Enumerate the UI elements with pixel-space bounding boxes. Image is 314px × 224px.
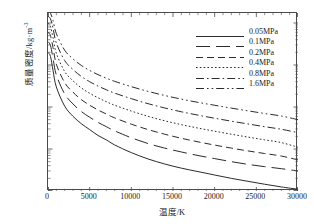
density-temperature-chart: 质量密度/kg·m-3 10110010-110-210-3 050001000… [0, 0, 314, 224]
legend-line-swatch [196, 69, 244, 78]
y-axis-title-text: 质量密度/kg·m [24, 28, 34, 86]
y-axis-title-exponent: -3 [23, 22, 29, 27]
legend-item: 0.8MPa [196, 68, 296, 79]
legend-item: 0.1MPa [196, 37, 296, 48]
x-tick-label: 5000 [69, 192, 109, 201]
legend-label: 0.4MPa [244, 58, 274, 67]
legend-item: 0.4MPa [196, 58, 296, 69]
legend-label: 0.2MPa [244, 48, 274, 57]
legend-item: 1.6MPa [196, 79, 296, 90]
legend-line-swatch [196, 58, 244, 67]
x-axis-title: 温度/K [47, 205, 297, 217]
legend: 0.05MPa0.1MPa0.2MPa0.4MPa0.8MPa1.6MPa [196, 26, 296, 89]
y-axis-title: 质量密度/kg·m-3 [22, 0, 34, 114]
x-tick-label: 10000 [110, 192, 150, 201]
legend-line-swatch [196, 37, 244, 46]
legend-line-swatch [196, 48, 244, 57]
legend-line-swatch [196, 79, 244, 88]
legend-line-swatch [196, 27, 244, 36]
legend-label: 0.05MPa [244, 27, 278, 36]
legend-item: 0.05MPa [196, 26, 296, 37]
legend-label: 0.8MPa [244, 69, 274, 78]
x-tick-label: 0 [27, 192, 67, 201]
x-tick-label: 30000 [277, 192, 314, 201]
x-tick-label: 15000 [152, 192, 192, 201]
x-tick-label: 20000 [194, 192, 234, 201]
legend-label: 1.6MPa [244, 79, 274, 88]
legend-label: 0.1MPa [244, 37, 274, 46]
legend-item: 0.2MPa [196, 47, 296, 58]
x-tick-label: 25000 [235, 192, 275, 201]
